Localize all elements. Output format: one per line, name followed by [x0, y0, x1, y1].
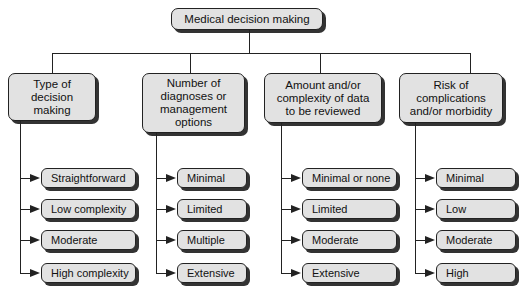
- connector-cat-2: [190, 53, 191, 73]
- leaf-limited: Limited: [177, 199, 247, 219]
- leaf-label: Extensive: [312, 267, 360, 279]
- category-3-line-2: complexity of data: [277, 92, 370, 104]
- leaf-label: Limited: [187, 203, 222, 215]
- spine-4: [415, 123, 416, 274]
- leaf-label: Minimal: [446, 172, 484, 184]
- arrow-icon: [30, 174, 40, 182]
- arrow-icon: [30, 236, 40, 244]
- leaf-label: Moderate: [312, 234, 358, 246]
- connector-horizontal-bar: [52, 53, 470, 54]
- connector-cat-4: [470, 53, 471, 73]
- leaf-minimal-or-none: Minimal or none: [302, 168, 397, 188]
- leaf-label: Minimal or none: [312, 172, 390, 184]
- category-3-line-1: Amount and/or: [285, 79, 360, 91]
- leaf-label: Straightforward: [51, 172, 126, 184]
- leaf-low-complexity: Low complexity: [41, 199, 136, 219]
- leaf-extensive: Extensive: [177, 263, 247, 283]
- leaf-label: Moderate: [446, 234, 492, 246]
- leaf-label: Limited: [312, 203, 347, 215]
- arrow-icon: [425, 205, 435, 213]
- leaf-moderate: Moderate: [436, 230, 516, 250]
- arrow-icon: [291, 174, 301, 182]
- arrow-icon: [425, 174, 435, 182]
- leaf-limited: Limited: [302, 199, 397, 219]
- arrow-icon: [291, 269, 301, 277]
- category-4-line-3: and/or morbidity: [410, 105, 492, 117]
- leaf-label: High: [446, 267, 469, 279]
- leaf-label: Low complexity: [51, 203, 126, 215]
- category-2-line-2: diagnoses or: [161, 90, 227, 102]
- leaf-minimal: Minimal: [177, 168, 247, 188]
- category-type-of-decision-making: Type ofdecisionmaking: [8, 73, 96, 121]
- category-4-line-2: complications: [416, 92, 486, 104]
- leaf-label: Low: [446, 203, 466, 215]
- category-amount-complexity-of-data: Amount and/orcomplexity of datato be rev…: [264, 73, 382, 123]
- leaf-moderate: Moderate: [302, 230, 397, 250]
- leaf-minimal: Minimal: [436, 168, 516, 188]
- spine-1: [20, 121, 21, 274]
- leaf-label: Multiple: [187, 234, 225, 246]
- arrow-icon: [30, 205, 40, 213]
- leaf-high-complexity: High complexity: [41, 263, 136, 283]
- leaf-label: Minimal: [187, 172, 225, 184]
- arrow-icon: [166, 205, 176, 213]
- leaf-straightforward: Straightforward: [41, 168, 136, 188]
- category-1-line-2: decision: [31, 91, 73, 103]
- leaf-label: High complexity: [51, 267, 129, 279]
- leaf-moderate: Moderate: [41, 230, 136, 250]
- leaf-multiple: Multiple: [177, 230, 247, 250]
- leaf-low: Low: [436, 199, 516, 219]
- category-2-line-1: Number of: [167, 77, 221, 89]
- category-2-line-4: options: [175, 116, 212, 128]
- root-node-medical-decision-making: Medical decision making: [171, 8, 323, 30]
- category-2-line-3: management: [160, 103, 227, 115]
- category-4-line-1: Risk of: [433, 79, 468, 91]
- category-1-line-1: Type of: [33, 78, 71, 90]
- arrow-icon: [291, 205, 301, 213]
- spine-3: [281, 123, 282, 274]
- arrow-icon: [166, 174, 176, 182]
- leaf-label: Moderate: [51, 234, 97, 246]
- spine-2: [156, 133, 157, 274]
- leaf-extensive: Extensive: [302, 263, 397, 283]
- root-label: Medical decision making: [184, 13, 309, 25]
- arrow-icon: [425, 269, 435, 277]
- connector-root-down: [249, 30, 250, 53]
- category-1-line-3: making: [33, 104, 70, 116]
- category-risk-of-complications: Risk ofcomplicationsand/or morbidity: [399, 73, 503, 123]
- category-3-line-3: to be reviewed: [286, 105, 361, 117]
- arrow-icon: [425, 236, 435, 244]
- leaf-label: Extensive: [187, 267, 235, 279]
- arrow-icon: [166, 269, 176, 277]
- arrow-icon: [30, 269, 40, 277]
- arrow-icon: [291, 236, 301, 244]
- leaf-high: High: [436, 263, 516, 283]
- connector-cat-1: [52, 53, 53, 73]
- connector-cat-3: [320, 53, 321, 73]
- category-number-of-diagnoses: Number ofdiagnoses ormanagementoptions: [142, 73, 245, 133]
- arrow-icon: [166, 236, 176, 244]
